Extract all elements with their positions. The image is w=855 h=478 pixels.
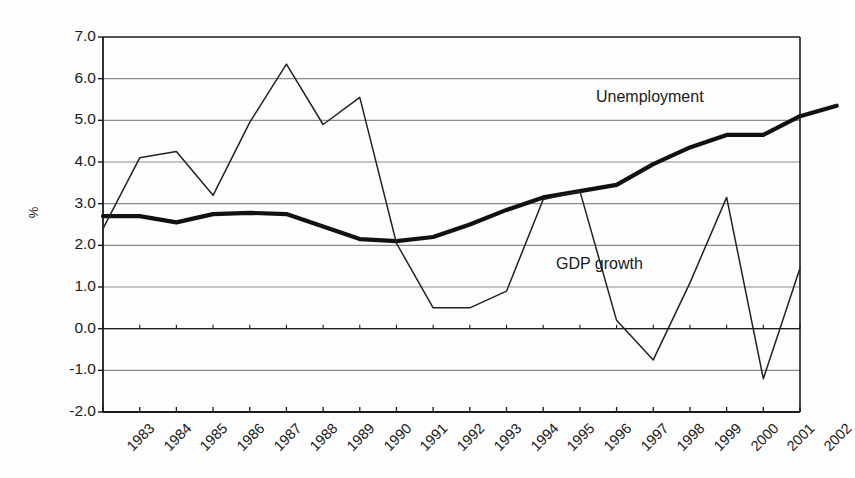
y-tick-label: 1.0 — [74, 277, 96, 295]
y-axis-tick-labels: 7.06.05.04.03.02.01.00.0-1.0-2.0 — [40, 0, 96, 478]
y-tick-label: 6.0 — [74, 69, 96, 87]
y-axis-title: % — [26, 207, 41, 219]
series-label-gdp-growth: GDP growth — [556, 255, 643, 273]
y-tick-label: 5.0 — [74, 110, 96, 128]
y-tick-label: -1.0 — [69, 360, 96, 378]
series-label-unemployment: Unemployment — [596, 88, 704, 106]
y-tick-label: 4.0 — [74, 152, 96, 170]
y-tick-label: -2.0 — [69, 402, 96, 420]
y-tick-label: 0.0 — [74, 319, 96, 337]
y-tick-label: 2.0 — [74, 235, 96, 253]
y-tick-label: 7.0 — [74, 27, 96, 45]
y-tick-label: 3.0 — [74, 194, 96, 212]
